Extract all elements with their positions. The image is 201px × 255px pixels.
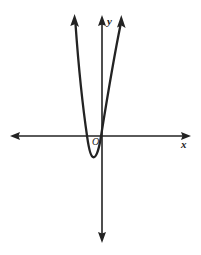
y-axis-top-arrow-icon (98, 15, 106, 26)
y-axis-label: y (107, 16, 112, 27)
y-axis-bottom-arrow-icon (98, 232, 106, 243)
parabola-figure: x y O (0, 0, 201, 255)
graph-canvas (0, 0, 201, 255)
origin-label: O (92, 137, 99, 147)
x-axis-left-arrow-icon (10, 132, 20, 140)
x-axis-label: x (181, 139, 187, 150)
